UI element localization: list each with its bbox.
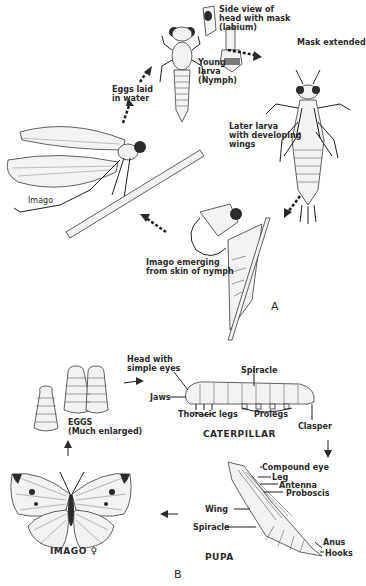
- label-wing: Wing: [205, 505, 228, 514]
- label-later-larva: Later larva with developing wings: [229, 122, 301, 149]
- adult-dragonfly-drawing: [7, 127, 204, 238]
- label-pupa-title: PUPA: [205, 553, 234, 562]
- label-compound-eye: Compound eye: [262, 463, 329, 472]
- label-prolegs: Prolegs: [254, 410, 288, 419]
- label-caterpillar-title: CATERPILLAR: [203, 430, 276, 439]
- label-anus: Anus: [323, 538, 345, 547]
- label-proboscis: Proboscis: [286, 489, 330, 498]
- butterfly-imago-drawing: [11, 472, 131, 548]
- arrow-emerging-to-imago: [146, 218, 166, 232]
- panel-label-a: A: [271, 302, 279, 311]
- label-jaws: Jaws: [150, 393, 171, 402]
- label-clasper: Clasper: [298, 422, 332, 431]
- label-hooks: Hooks: [325, 549, 353, 558]
- label-eggs-laid: Eggs laid in water: [112, 85, 153, 103]
- label-spiracle-pupa: Spiracle: [193, 523, 229, 532]
- label-imago-dragonfly: Imago: [28, 196, 53, 205]
- panel-label-b: B: [174, 570, 182, 579]
- label-young-larva: Young larva (Nymph): [198, 58, 237, 85]
- label-imago-butterfly: IMAGO ♀: [50, 547, 98, 556]
- label-imago-emerging: Imago emerging from skin of nymph: [146, 258, 234, 276]
- label-thoracic-legs: Thoracic legs: [178, 410, 238, 419]
- label-mask-extended: Mask extended: [297, 38, 366, 47]
- label-side-view-head: Side view of head with mask (labium): [219, 5, 290, 32]
- side-view-head-drawing: [203, 6, 216, 36]
- label-head-simple-eyes: Head with simple eyes: [127, 355, 180, 373]
- label-eggs: EGGS (Much enlarged): [68, 418, 142, 436]
- label-spiracle-caterpillar: Spiracle: [241, 366, 277, 375]
- arrow-later-to-emerging: [288, 196, 300, 212]
